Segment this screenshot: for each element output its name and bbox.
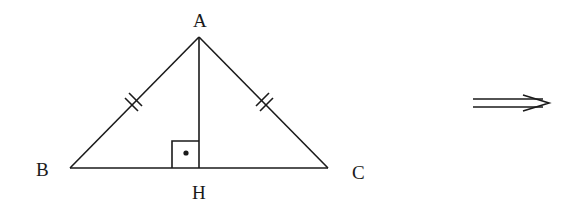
equal-tick-ab bbox=[125, 93, 142, 111]
vertex-label-b: B bbox=[36, 159, 49, 180]
right-angle-dot bbox=[183, 150, 188, 155]
implies-arrow-icon bbox=[473, 95, 549, 111]
side-ab bbox=[70, 37, 199, 168]
equal-tick-ac bbox=[256, 93, 273, 111]
vertex-label-a: A bbox=[193, 10, 207, 31]
side-ac bbox=[199, 37, 328, 168]
vertex-label-c: C bbox=[352, 162, 365, 183]
triangle-diagram: A B C H bbox=[0, 0, 569, 216]
foot-label-h: H bbox=[192, 182, 206, 203]
